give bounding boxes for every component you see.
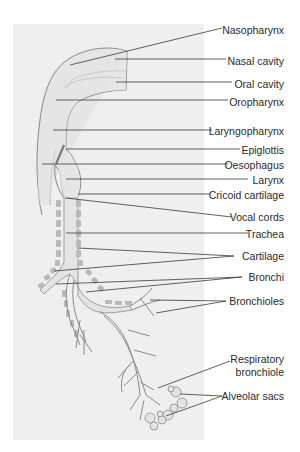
label-nasal-cavity: Nasal cavity <box>227 55 284 67</box>
label-trachea: Trachea <box>246 228 284 240</box>
label-respiratory-line1: Respiratory <box>230 353 284 366</box>
label-alveolar-sacs: Alveolar sacs <box>222 390 284 402</box>
label-laryngopharynx: Laryngopharynx <box>209 125 284 137</box>
label-cartilage: Cartilage <box>242 250 284 262</box>
label-vocal-cords: Vocal cords <box>230 211 284 223</box>
label-bronchi: Bronchi <box>248 271 284 283</box>
label-oesophagus: Oesophagus <box>224 159 284 171</box>
label-cricoid-cartilage: Cricoid cartilage <box>209 189 284 201</box>
respiratory-tract-diagram <box>0 0 300 452</box>
label-epiglottis: Epiglottis <box>241 144 284 156</box>
label-respiratory-bronchiole: Respiratory bronchiole <box>230 353 284 379</box>
label-oral-cavity: Oral cavity <box>234 78 284 90</box>
label-oropharynx: Oropharynx <box>229 96 284 108</box>
label-bronchioles: Bronchioles <box>229 295 284 307</box>
label-nasopharynx: Nasopharynx <box>222 24 284 36</box>
label-respiratory-line2: bronchiole <box>230 366 284 379</box>
label-larynx: Larynx <box>252 174 284 186</box>
